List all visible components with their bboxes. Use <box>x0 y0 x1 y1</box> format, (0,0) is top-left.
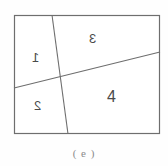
region-4-digit: 4 <box>107 88 116 105</box>
region-label-1: 1 <box>32 51 39 64</box>
region-2-digit: 2 <box>34 99 41 112</box>
region-label-3: 3 <box>89 32 96 45</box>
region-label-4: 4 <box>107 89 116 105</box>
outer-rectangle <box>15 16 160 134</box>
region-1-digit: 1 <box>32 51 39 64</box>
region-label-2: 2 <box>34 99 41 112</box>
region-3-digit: 3 <box>89 32 96 45</box>
figure-container: 1 2 3 4 ( e ) <box>0 0 168 166</box>
figure-caption: ( e ) <box>0 140 168 166</box>
partitioned-rectangle-diagram <box>0 0 168 140</box>
diagram-area: 1 2 3 4 <box>0 0 168 140</box>
